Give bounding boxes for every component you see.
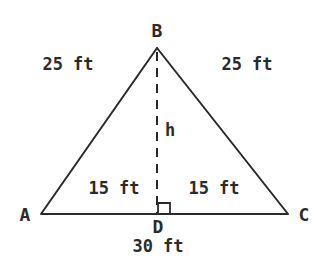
vertex-label-d: D: [153, 216, 164, 237]
label-segment-dc: 15 ft: [188, 178, 239, 198]
label-side-bc: 25 ft: [221, 54, 272, 74]
vertex-label-c: C: [299, 204, 310, 225]
right-angle-marker: [158, 203, 170, 214]
label-base-ac: 30 ft: [132, 236, 183, 256]
vertex-label-b: B: [152, 20, 163, 41]
label-segment-ad: 15 ft: [88, 178, 139, 198]
triangle-diagram: B A C D 25 ft 25 ft 15 ft 15 ft 30 ft h: [0, 0, 323, 270]
label-height-h: h: [165, 120, 175, 140]
label-side-ab: 25 ft: [42, 54, 93, 74]
vertex-label-a: A: [20, 204, 31, 225]
